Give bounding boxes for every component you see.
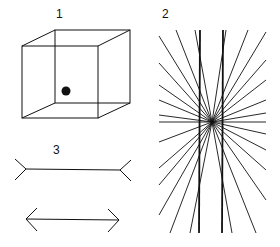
ray-line — [212, 122, 266, 200]
muller-lyer-top — [15, 159, 131, 181]
ray-line — [159, 122, 212, 185]
ray-line — [212, 113, 266, 122]
cube-dot — [62, 87, 71, 96]
ray-line — [212, 122, 266, 134]
ray-line — [176, 30, 212, 122]
ray-line — [159, 63, 212, 122]
necker-cube — [22, 30, 130, 118]
ray-line — [212, 122, 256, 233]
ray-line — [212, 32, 266, 122]
muller-lyer-bottom — [26, 208, 119, 232]
radiating-lines — [159, 30, 266, 233]
ray-line — [170, 122, 212, 233]
parallel-vertical-lines — [199, 30, 223, 233]
ray-line — [159, 122, 212, 215]
ray-line — [212, 100, 266, 122]
